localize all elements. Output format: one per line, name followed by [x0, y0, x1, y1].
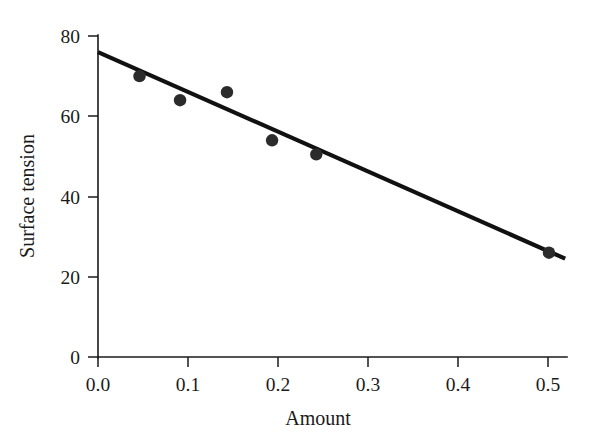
y-tick-label-0: 0	[70, 347, 80, 368]
data-point	[543, 246, 555, 258]
x-tick-label-0.5: 0.5	[536, 374, 560, 395]
x-tick-label-0.3: 0.3	[356, 374, 380, 395]
x-axis-title: Amount	[285, 407, 351, 429]
data-point	[266, 134, 278, 146]
data-point	[310, 148, 322, 160]
x-tick-label-0.1: 0.1	[176, 374, 200, 395]
y-tick-label-80: 80	[61, 26, 81, 47]
data-point	[133, 70, 145, 82]
x-tick-label-0.4: 0.4	[446, 374, 471, 395]
chart-canvas: 80 60 40 20 0 0.0 0.1 0.2 0.3 0.4 0.5	[0, 0, 605, 440]
chart-figure: 80 60 40 20 0 0.0 0.1 0.2 0.3 0.4 0.5	[0, 0, 605, 440]
y-tick-label-60: 60	[61, 106, 81, 127]
y-tick-label-20: 20	[61, 267, 81, 288]
x-tick-label-0.0: 0.0	[86, 374, 110, 395]
data-point	[221, 86, 233, 98]
y-tick-label-40: 40	[61, 187, 81, 208]
x-tick-label-0.2: 0.2	[266, 374, 290, 395]
data-point	[174, 94, 186, 106]
y-axis-title: Surface tension	[16, 134, 38, 258]
